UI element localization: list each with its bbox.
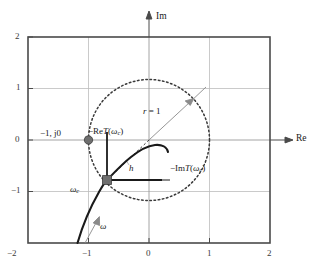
- re-axis-arrowhead: [285, 137, 293, 143]
- axis-arrows: [146, 11, 293, 143]
- im-component-prefix: −Im: [170, 163, 185, 173]
- x-tick-label-neg1: −1: [82, 248, 92, 258]
- re-component-label: −ReT(ωc): [88, 126, 123, 136]
- y-tick-label-0: 0: [15, 134, 20, 144]
- x-tick-label-1: 1: [207, 248, 212, 258]
- y-tick-label-1: 1: [16, 82, 21, 92]
- y-tick-label-neg1: −1: [11, 185, 21, 195]
- omega-direction-label: ω: [100, 221, 106, 231]
- omega-direction-arrow: [85, 217, 100, 243]
- h-label: h: [129, 163, 134, 173]
- radius-label: r = 1: [143, 106, 161, 116]
- re-paren-close: ): [120, 126, 123, 136]
- omega-c-label: ωc: [70, 184, 79, 194]
- x-tick-label-2: 2: [267, 248, 272, 258]
- im-component-label: −ImT(ωc): [170, 163, 205, 173]
- omega-c-subscript: c: [76, 187, 79, 194]
- y-tick-label-2: 2: [15, 31, 20, 41]
- radius-value: = 1: [149, 106, 161, 116]
- radius-symbol: r: [143, 106, 147, 116]
- x-tick-label-0: 0: [146, 248, 151, 258]
- critical-point-marker: [84, 136, 92, 144]
- radius-arrowhead: [185, 99, 194, 106]
- im-paren-close: ): [202, 163, 205, 173]
- crossover-point-marker: [103, 176, 112, 185]
- x-tick-label-neg2: −2: [7, 248, 17, 258]
- im-axis-arrowhead: [146, 11, 152, 19]
- nyquist-diagram: Im Re 2 1 0 −1 −2 −1 0 1 2 −1, j0 −ReT(ω…: [0, 0, 314, 275]
- axis-label-imaginary: Im: [156, 11, 167, 21]
- critical-point-label: −1, j0: [40, 128, 61, 138]
- omega-arrowhead: [93, 217, 99, 226]
- re-component-prefix: −Re: [88, 126, 103, 136]
- omega-arrow-line: [85, 221, 97, 243]
- axis-label-real: Re: [296, 133, 307, 143]
